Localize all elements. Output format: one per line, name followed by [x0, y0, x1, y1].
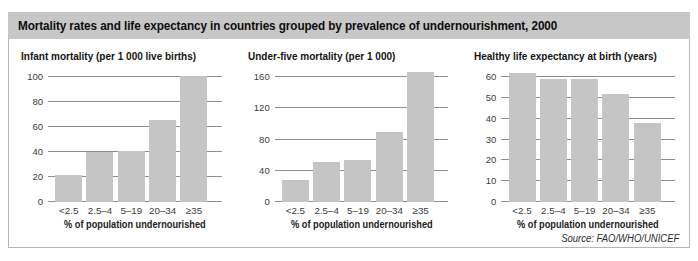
x-tick-label: 20–34: [600, 205, 631, 217]
bar-slot: [342, 77, 373, 202]
x-tick-label: 5–19: [569, 205, 600, 217]
x-axis-title: % of population undernourished: [282, 218, 442, 231]
bar: [634, 123, 661, 202]
bars-group: [501, 77, 675, 202]
bar: [540, 79, 567, 202]
bar: [602, 94, 629, 202]
y-tick-label: 0: [246, 197, 270, 207]
bars-group: [48, 77, 222, 202]
x-tick-label: 5–19: [342, 205, 373, 217]
x-tick-labels: <2.52.5–45–1920–34≥35: [275, 205, 449, 217]
y-tick-label: 20: [472, 155, 496, 165]
chart-title: Under-five mortality (per 1 000): [248, 49, 423, 63]
y-tick-label: 40: [246, 166, 270, 176]
bar-slot: [280, 77, 311, 202]
x-tick-label: <2.5: [280, 205, 311, 217]
bar: [571, 79, 598, 202]
bar: [282, 180, 309, 202]
x-tick-label: 5–19: [116, 205, 147, 217]
figure-title: Mortality rates and life expectancy in c…: [18, 18, 557, 33]
chart-title: Infant mortality (per 1 000 live births): [21, 49, 196, 63]
y-tick-label: 160: [246, 72, 270, 82]
y-tick-label: 40: [472, 114, 496, 124]
x-tick-label: ≥35: [405, 205, 436, 217]
x-tick-label: <2.5: [53, 205, 84, 217]
y-tick-label: 40: [19, 147, 43, 157]
x-tick-label: 20–34: [147, 205, 178, 217]
x-axis-title: % of population undernourished: [55, 218, 215, 231]
bar-slot: [178, 77, 209, 202]
y-tick-label: 30: [472, 135, 496, 145]
bar-slot: [116, 77, 147, 202]
bar-slot: [147, 77, 178, 202]
y-tick-label: 50: [472, 93, 496, 103]
x-tick-labels: <2.52.5–45–1920–34≥35: [501, 205, 675, 217]
x-tick-label: ≥35: [632, 205, 663, 217]
bars-group: [275, 77, 449, 202]
plot-area: 020406080100: [48, 77, 222, 202]
bar: [55, 175, 82, 203]
bar-slot: [632, 77, 663, 202]
y-tick-label: 80: [246, 135, 270, 145]
bar: [149, 120, 176, 203]
bar: [118, 151, 145, 202]
bar: [509, 73, 536, 202]
charts-panel: Infant mortality (per 1 000 live births)…: [8, 39, 690, 248]
x-tick-label: <2.5: [506, 205, 537, 217]
chart-healthy-life-expectancy: Healthy life expectancy at birth (years)…: [462, 39, 689, 247]
chart-under-five-mortality: Under-five mortality (per 1 000) 0408012…: [236, 39, 463, 247]
bar-slot: [84, 77, 115, 202]
bar: [180, 76, 207, 202]
y-tick-label: 0: [19, 197, 43, 207]
figure: Mortality rates and life expectancy in c…: [8, 12, 690, 248]
bar-slot: [538, 77, 569, 202]
x-tick-labels: <2.52.5–45–1920–34≥35: [48, 205, 222, 217]
y-tick-label: 120: [246, 103, 270, 113]
bar-slot: [374, 77, 405, 202]
bar: [344, 160, 371, 202]
x-tick-label: 2.5–4: [311, 205, 342, 217]
bar-slot: [53, 77, 84, 202]
figure-title-band: Mortality rates and life expectancy in c…: [8, 12, 690, 39]
chart-infant-mortality: Infant mortality (per 1 000 live births)…: [9, 39, 236, 247]
bar-slot: [600, 77, 631, 202]
y-tick-label: 10: [472, 176, 496, 186]
x-tick-label: 2.5–4: [538, 205, 569, 217]
bar: [313, 162, 340, 202]
y-tick-label: 60: [472, 72, 496, 82]
x-tick-label: 2.5–4: [84, 205, 115, 217]
y-tick-label: 0: [472, 197, 496, 207]
bar-slot: [506, 77, 537, 202]
x-tick-label: ≥35: [178, 205, 209, 217]
y-tick-label: 20: [19, 172, 43, 182]
chart-title: Healthy life expectancy at birth (years): [474, 49, 649, 63]
x-tick-label: 20–34: [374, 205, 405, 217]
plot-area: 0102030405060: [501, 77, 675, 202]
y-tick-label: 100: [19, 72, 43, 82]
y-tick-label: 80: [19, 97, 43, 107]
bar: [86, 152, 113, 202]
bar-slot: [311, 77, 342, 202]
bar-slot: [569, 77, 600, 202]
bar: [376, 132, 403, 202]
screenshot-stage: Mortality rates and life expectancy in c…: [0, 0, 698, 261]
bar-slot: [405, 77, 436, 202]
x-axis-title: % of population undernourished: [508, 218, 668, 231]
source-note: Source: FAO/WHO/UNICEF: [561, 233, 679, 244]
plot-area: 04080120160: [275, 77, 449, 202]
bar: [407, 72, 434, 202]
y-tick-label: 60: [19, 122, 43, 132]
